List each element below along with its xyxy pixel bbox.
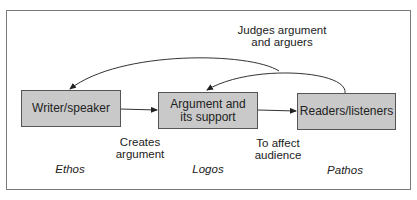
arc-judges-to-writer [70, 58, 279, 89]
edge-label-creates: Creates argument [105, 136, 175, 160]
arrow-writer-to-argument [120, 109, 157, 110]
node-readers-label: Readers/listeners [300, 105, 393, 118]
arrow-argument-to-readers [258, 110, 296, 111]
judges-label-line2: and arguers [222, 36, 342, 48]
affect-line2: audience [243, 149, 313, 161]
creates-line2: argument [105, 148, 175, 160]
node-argument-line2: its support [180, 111, 235, 124]
judges-label-line1: Judges argument [222, 24, 342, 36]
node-writer-speaker: Writer/speaker [21, 90, 121, 127]
appeal-pathos: Pathos [315, 164, 375, 176]
appeal-ethos: Ethos [40, 163, 100, 175]
creates-line1: Creates [105, 136, 175, 148]
appeal-logos: Logos [178, 163, 238, 175]
node-writer-label: Writer/speaker [32, 102, 110, 115]
affect-line1: To affect [243, 137, 313, 149]
arc-readers-to-argument [207, 73, 345, 93]
node-readers-listeners: Readers/listeners [297, 93, 396, 130]
judges-label: Judges argument and arguers [222, 24, 342, 48]
node-argument: Argument and its support [158, 92, 258, 129]
edge-label-affect: To affect audience [243, 137, 313, 161]
node-argument-line1: Argument and [170, 98, 245, 111]
